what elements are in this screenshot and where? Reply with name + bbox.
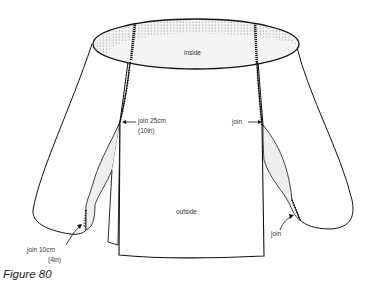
label-outside: outside [176,208,197,216]
label-join-bottom-right: join [271,230,281,238]
label-join-top-right: join [232,118,242,126]
label-join-top-left-1: join 25cm [138,117,166,125]
label-join-bottom-left-1: join 10cm [27,246,55,254]
arrowhead-bottom-right [289,214,294,219]
label-inside: inside [184,49,201,57]
right-sleeve [258,44,353,229]
label-join-bottom-left-2: (4in) [48,256,61,264]
garment-diagram [0,0,373,287]
label-join-top-left-2: (10in) [138,127,155,135]
figure-caption: Figure 80 [3,268,52,280]
body-front [119,62,264,258]
